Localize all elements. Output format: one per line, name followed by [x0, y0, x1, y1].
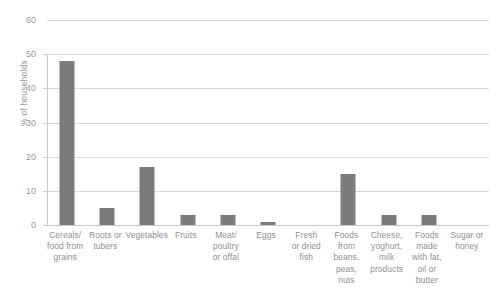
x-axis-label-line: Vegetables	[125, 230, 165, 241]
bar-slot	[47, 20, 87, 225]
x-axis-label-line: Eggs	[246, 230, 286, 241]
y-tick-label: 20	[0, 153, 36, 162]
bar-slot	[168, 20, 208, 225]
bar[interactable]	[140, 167, 155, 225]
y-tick-label: 30	[0, 119, 36, 128]
bar[interactable]	[381, 215, 396, 225]
x-axis-label-line: with fat,	[407, 252, 447, 263]
x-axis-label-line: Fresh	[286, 230, 326, 241]
bar-slot	[248, 20, 288, 225]
x-axis-label-line: beans,	[326, 252, 366, 263]
bar[interactable]	[341, 174, 356, 225]
y-tick-label: 40	[0, 84, 36, 93]
x-axis-label-line: butter	[407, 275, 447, 286]
bar-slot	[208, 20, 248, 225]
bar-slot	[449, 20, 489, 225]
y-tick-label: 60	[0, 16, 36, 25]
bar[interactable]	[220, 215, 235, 225]
x-axis-label-line: food from	[45, 241, 85, 252]
x-axis-label-line: nuts	[326, 275, 366, 286]
x-axis-label: Fruits	[166, 230, 206, 241]
x-axis-labels: Cereals/food fromgrainsRoots ortubersVeg…	[47, 230, 489, 300]
x-axis-label-line: Fruits	[166, 230, 206, 241]
x-axis-label: Vegetables	[125, 230, 165, 241]
plot-area: 0102030405060	[47, 20, 489, 225]
x-axis-label: Eggs	[246, 230, 286, 241]
x-axis-label-line: from	[326, 241, 366, 252]
x-axis-label-line: poultry	[206, 241, 246, 252]
bar-chart: % of households 0102030405060 Cereals/fo…	[0, 0, 496, 303]
bar-slot	[87, 20, 127, 225]
bar-series	[47, 20, 489, 225]
x-axis-label-line: Foods	[326, 230, 366, 241]
x-axis-label-line: fish	[286, 252, 326, 263]
x-axis-label-line: Roots or	[85, 230, 125, 241]
x-axis-label-line: tubers	[85, 241, 125, 252]
x-axis-label: Sugar orhoney	[447, 230, 487, 252]
bar[interactable]	[180, 215, 195, 225]
x-axis-label: Freshor driedfish	[286, 230, 326, 264]
y-tick-label: 50	[0, 50, 36, 59]
y-tick-label: 10	[0, 187, 36, 196]
x-axis-label-line: milk	[367, 252, 407, 263]
bar-slot	[288, 20, 328, 225]
x-axis-label: Cheese,yoghurt,milkproducts	[367, 230, 407, 275]
bar-slot	[127, 20, 167, 225]
x-axis-label-line: made	[407, 241, 447, 252]
x-axis-label: Roots ortubers	[85, 230, 125, 252]
bar[interactable]	[421, 215, 436, 225]
x-axis-label-line: products	[367, 264, 407, 275]
bar[interactable]	[100, 208, 115, 225]
x-axis-label-line: oil or	[407, 264, 447, 275]
x-axis-label: Foodsmadewith fat,oil orbutter	[407, 230, 447, 286]
x-axis-label-line: honey	[447, 241, 487, 252]
bar-slot	[368, 20, 408, 225]
x-axis-label-line: or dried	[286, 241, 326, 252]
x-axis-label-line: Sugar or	[447, 230, 487, 241]
x-axis-label: Meat/poultryor offal	[206, 230, 246, 264]
x-axis-label-line: Foods	[407, 230, 447, 241]
x-axis-label-line: Meat/	[206, 230, 246, 241]
x-axis-label-line: grains	[45, 252, 85, 263]
x-axis-label-line: or offal	[206, 252, 246, 263]
x-axis-label: Foodsfrombeans,peas,nuts	[326, 230, 366, 286]
x-axis-label-line: peas,	[326, 264, 366, 275]
bar-slot	[328, 20, 368, 225]
x-axis-label-line: Cereals/	[45, 230, 85, 241]
y-tick-label: 0	[0, 221, 36, 230]
bar[interactable]	[260, 222, 275, 225]
x-axis-label: Cereals/food fromgrains	[45, 230, 85, 264]
x-axis-label-line: Cheese,	[367, 230, 407, 241]
bar-slot	[409, 20, 449, 225]
x-axis-baseline	[47, 225, 489, 226]
bar[interactable]	[60, 61, 75, 225]
x-axis-label-line: yoghurt,	[367, 241, 407, 252]
